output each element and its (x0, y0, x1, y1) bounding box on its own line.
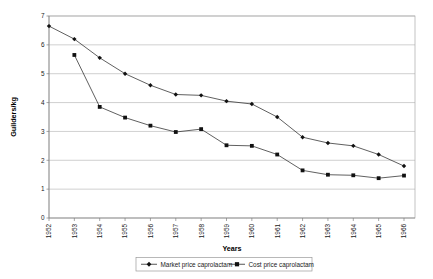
data-point (225, 143, 229, 147)
y-tick-label-4: 4 (41, 99, 45, 106)
data-point (98, 105, 102, 109)
data-point (123, 72, 127, 76)
data-point (250, 144, 254, 148)
x-tick-label-1955: 1955 (121, 224, 128, 239)
y-tick-label-6: 6 (41, 41, 45, 48)
y-tick-label-3: 3 (41, 128, 45, 135)
data-point (402, 174, 406, 178)
data-point (402, 164, 406, 168)
data-point (148, 83, 152, 87)
data-point (377, 176, 381, 180)
data-point (72, 53, 76, 57)
data-point (376, 152, 380, 156)
x-tick-label-1964: 1964 (350, 224, 357, 239)
data-point (351, 144, 355, 148)
y-tick-label-5: 5 (41, 70, 45, 77)
x-tick-label-1966: 1966 (400, 224, 407, 239)
y-tick-label-1: 1 (41, 185, 45, 192)
data-point (199, 93, 203, 97)
x-tick-label-1961: 1961 (274, 224, 281, 239)
data-point (47, 24, 51, 28)
data-point (149, 124, 153, 128)
data-point (301, 168, 305, 172)
x-tick-label-1956: 1956 (147, 224, 154, 239)
x-tick-label-1957: 1957 (172, 224, 179, 239)
x-axis-group: 1952195319541955195619571958195919601961… (45, 218, 415, 238)
chart-container: 01234567 1952195319541955195619571958195… (0, 0, 433, 279)
data-point (326, 141, 330, 145)
x-tick-label-1962: 1962 (299, 224, 306, 239)
y-axis-group: 01234567 (41, 12, 49, 221)
x-tick-label-1958: 1958 (198, 224, 205, 239)
y-axis-title: Guilders/kg (9, 97, 18, 137)
y-tick-label-7: 7 (41, 12, 45, 19)
legend-label-1: Market price caprolactam (161, 261, 233, 269)
x-tick-label-1954: 1954 (96, 224, 103, 239)
data-point (275, 153, 279, 157)
x-axis-title-group: Years (222, 244, 241, 253)
gridlines-group (49, 16, 415, 189)
x-tick-label-1953: 1953 (71, 224, 78, 239)
y-axis-title-group: Guilders/kg (9, 97, 18, 137)
x-tick-label-1963: 1963 (324, 224, 331, 239)
x-tick-label-1959: 1959 (223, 224, 230, 239)
series-group (47, 24, 406, 180)
data-point (351, 173, 355, 177)
legend: Market price caprolactamCost price capro… (136, 258, 314, 272)
data-point (174, 130, 178, 134)
legend-marker-square (235, 262, 239, 266)
data-point (199, 127, 203, 131)
x-tick-label-1960: 1960 (248, 224, 255, 239)
data-point (326, 173, 330, 177)
x-axis-title: Years (222, 244, 241, 253)
y-tick-label-0: 0 (41, 214, 45, 221)
line-chart: 01234567 1952195319541955195619571958195… (0, 0, 433, 279)
plot-border-group (49, 16, 415, 218)
x-tick-label-1952: 1952 (45, 224, 52, 239)
x-tick-label-1965: 1965 (375, 224, 382, 239)
data-point (123, 116, 127, 120)
y-tick-label-2: 2 (41, 157, 45, 164)
data-point (174, 92, 178, 96)
legend-label-2: Cost price caprolactam (249, 261, 314, 269)
plot-area-border (49, 16, 415, 218)
